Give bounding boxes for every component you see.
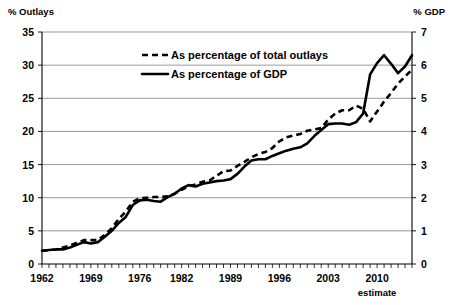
right-axis-title: % GDP — [413, 6, 445, 17]
left-tick-label: 5 — [28, 225, 34, 237]
x-tick-label: 2003 — [317, 272, 341, 284]
right-tick-label: 7 — [421, 26, 427, 38]
left-tick-label: 0 — [28, 258, 34, 270]
x-tick-label: 1962 — [30, 272, 54, 284]
right-tick-label: 4 — [421, 125, 427, 137]
chart-container: % Outlays % GDP 05101520253035 01234567 … — [0, 0, 453, 305]
legend-label-gdp: As percentage of GDP — [171, 68, 287, 80]
x-tick-label: 1989 — [219, 272, 243, 284]
series-line-total-outlays — [42, 70, 412, 251]
gridlines — [42, 32, 412, 231]
right-tick-label: 2 — [421, 192, 427, 204]
left-tick-label: 20 — [22, 125, 34, 137]
x-tick-label: 1996 — [268, 272, 292, 284]
x-axis-minor-ticks — [42, 264, 412, 268]
left-tick-label: 30 — [22, 59, 34, 71]
left-tick-label: 10 — [22, 192, 34, 204]
left-axis-title: % Outlays — [8, 6, 54, 17]
x-tick-label: 1982 — [170, 272, 194, 284]
series-line-gdp — [42, 55, 412, 251]
x-tick-label: 1976 — [128, 272, 152, 284]
left-tick-label: 25 — [22, 92, 34, 104]
right-tick-label: 1 — [421, 225, 427, 237]
right-tick-label: 5 — [421, 92, 427, 104]
line-chart: % Outlays % GDP 05101520253035 01234567 … — [0, 0, 453, 305]
left-axis-ticks: 05101520253035 — [22, 26, 42, 270]
x-axis-annotation: estimate — [358, 287, 397, 298]
right-tick-label: 0 — [421, 258, 427, 270]
left-tick-label: 15 — [22, 159, 34, 171]
right-axis-ticks: 01234567 — [412, 26, 427, 270]
right-tick-label: 6 — [421, 59, 427, 71]
right-tick-label: 3 — [421, 159, 427, 171]
left-tick-label: 35 — [22, 26, 34, 38]
x-tick-label: 2010 — [365, 272, 389, 284]
legend-label-total-outlays: As percentage of total outlays — [171, 49, 328, 61]
x-tick-label: 1969 — [79, 272, 103, 284]
x-axis-labels: 19621969197619821989199620032010 — [30, 272, 389, 284]
chart-legend: As percentage of total outlays As percen… — [142, 49, 328, 80]
